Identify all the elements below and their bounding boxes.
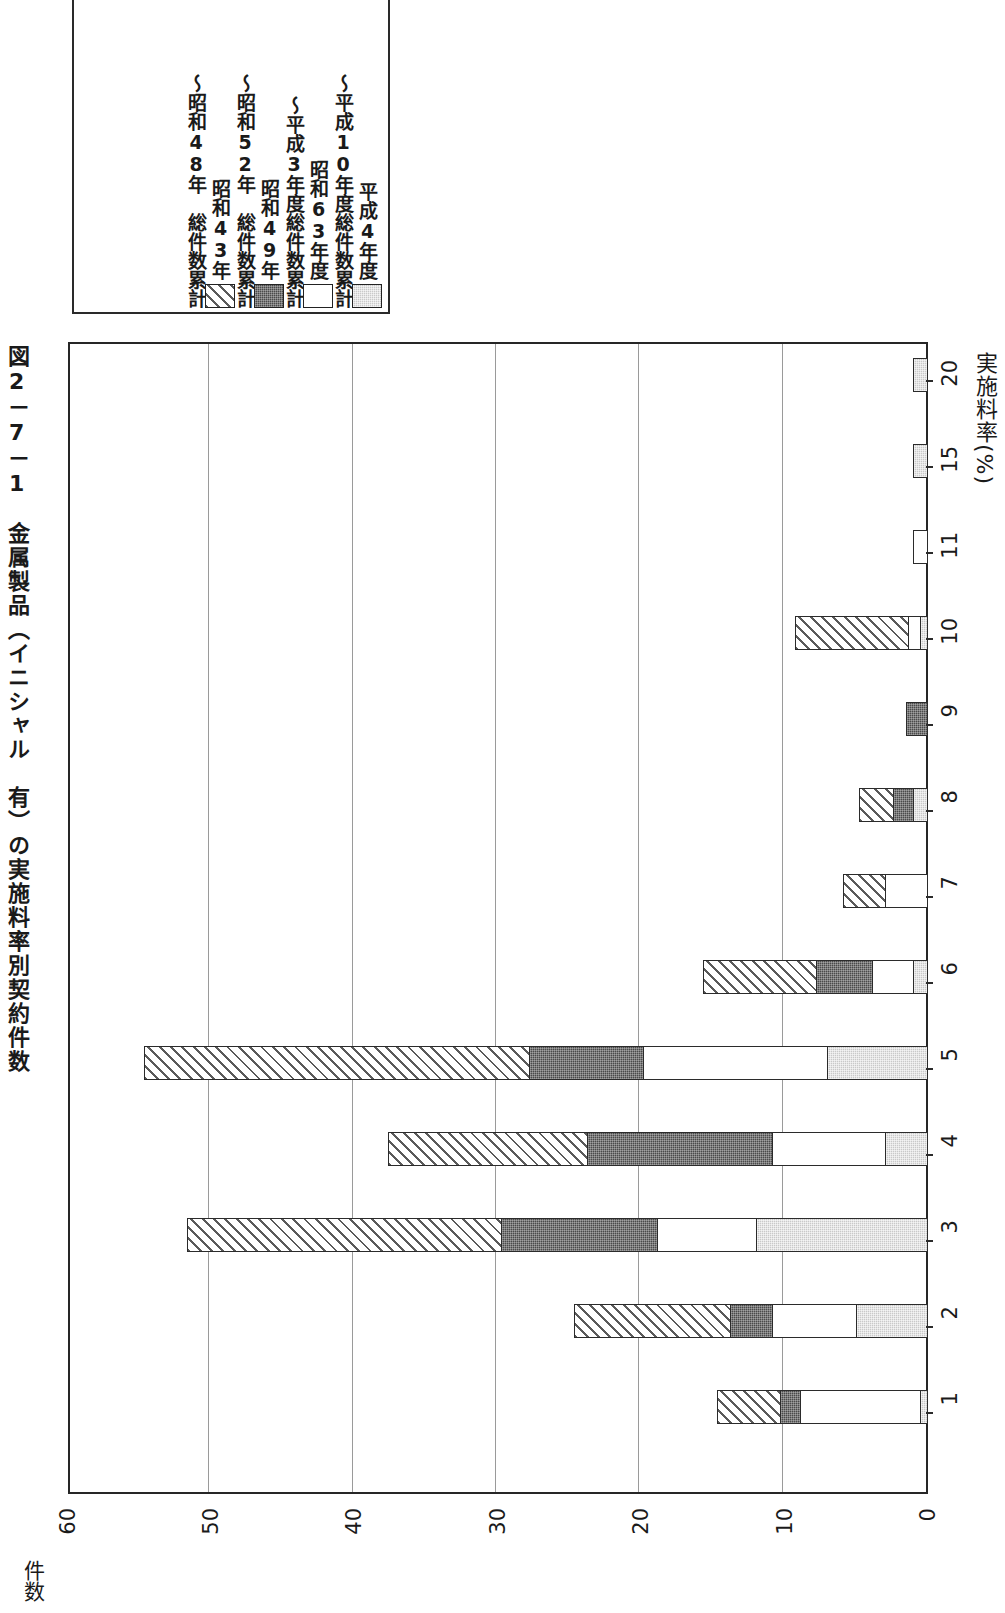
bar-segment [885, 874, 928, 908]
category-label-3: 3 [938, 1220, 962, 1233]
legend-label-1: 昭和63年度 [309, 160, 328, 280]
bar-segment [800, 1390, 922, 1424]
bar-row [913, 530, 926, 564]
legend-swatch-dark-gray-icon [254, 284, 284, 308]
bar-segment [388, 1132, 589, 1166]
category-label-9: 9 [938, 704, 962, 717]
category-label-15: 15 [938, 446, 962, 473]
bar-segment [913, 788, 927, 822]
legend-item-3: 昭和43年 ～昭和48年 総件数累計 [186, 0, 235, 308]
bar-segment [529, 1046, 644, 1080]
legend-entry-main: 昭和43年 [205, 179, 235, 308]
category-label-20: 20 [938, 360, 962, 387]
category-axis-title-main: 実施料率 [972, 352, 997, 444]
bar-segment [587, 1132, 773, 1166]
bar-row [859, 788, 926, 822]
value-axis-title: 件数 [22, 1560, 43, 1602]
bar-segment [872, 960, 915, 994]
legend-entry-main: 昭和63年度 [303, 160, 333, 308]
bar-segment [843, 874, 886, 908]
category-tick [926, 1326, 933, 1328]
bar-segment [920, 616, 927, 650]
bar-segment [703, 960, 818, 994]
bar-row [144, 1046, 926, 1080]
bar-segment [657, 1218, 757, 1252]
legend-label-0: 平成4年度 [358, 182, 377, 280]
bar-row [795, 616, 926, 650]
category-tick [926, 896, 933, 898]
bar-segment [859, 788, 895, 822]
legend-swatch-hatch-icon [205, 284, 235, 308]
value-label-40: 40 [342, 1508, 366, 1535]
bar-segment [780, 1390, 802, 1424]
bar-segment [913, 530, 927, 564]
category-tick [926, 724, 933, 726]
bar-row [913, 358, 926, 392]
legend-item-0: 平成4年度 ～平成10年度総件数累計 [333, 0, 382, 308]
category-tick [926, 1412, 933, 1414]
category-tick [926, 638, 933, 640]
category-label-8: 8 [938, 790, 962, 803]
legend-label-2: 昭和49年 [260, 179, 279, 280]
bar-row [574, 1304, 926, 1338]
legend-item-2: 昭和49年 ～昭和52年 総件数累計 [235, 0, 284, 308]
plot-area [68, 342, 928, 1494]
bar-segment [893, 788, 915, 822]
category-tick [926, 552, 933, 554]
category-label-10: 10 [938, 618, 962, 645]
bar-segment [730, 1304, 773, 1338]
value-label-50: 50 [199, 1508, 223, 1535]
bar-segment [920, 1390, 927, 1424]
bar-segment [913, 358, 927, 392]
value-label-20: 20 [629, 1508, 653, 1535]
bar-segment [795, 616, 910, 650]
category-tick [926, 466, 933, 468]
category-tick [926, 982, 933, 984]
bar-segment [574, 1304, 732, 1338]
bar-row [913, 444, 926, 478]
bar-row [187, 1218, 926, 1252]
category-tick [926, 1240, 933, 1242]
bar-segment [643, 1046, 829, 1080]
page-title: 図2－7－1 金属製品（イニシャル 有）の実施料率別契約件数 [4, 345, 28, 1074]
bar-segment [827, 1046, 927, 1080]
category-label-2: 2 [938, 1306, 962, 1319]
value-label-10: 10 [773, 1508, 797, 1535]
category-label-7: 7 [938, 876, 962, 889]
legend-continuation-1: ～平成3年度総件数累計 [284, 0, 303, 308]
value-label-30: 30 [486, 1508, 510, 1535]
category-label-5: 5 [938, 1048, 962, 1061]
bar-segment [501, 1218, 659, 1252]
category-tick [926, 810, 933, 812]
gridline-50 [208, 344, 209, 1492]
category-label-6: 6 [938, 962, 962, 975]
bar-segment [772, 1132, 887, 1166]
bar-segment [885, 1132, 928, 1166]
legend-swatch-light-gray-icon [352, 284, 382, 308]
legend-continuation-3: ～昭和48年 総件数累計 [186, 0, 205, 308]
bar-segment [906, 702, 928, 736]
bar-segment [913, 444, 927, 478]
bar-segment [756, 1218, 928, 1252]
value-label-60: 60 [56, 1508, 80, 1535]
bar-row [717, 1390, 926, 1424]
legend-continuation-0: ～平成10年度総件数累計 [333, 0, 352, 308]
legend-entry-main: 昭和49年 [254, 179, 284, 308]
bar-segment [717, 1390, 782, 1424]
bar-segment [913, 960, 927, 994]
legend-item-1: 昭和63年度 ～平成3年度総件数累計 [284, 0, 333, 308]
gridline-30 [495, 344, 496, 1492]
bar-row [388, 1132, 926, 1166]
category-tick [926, 1068, 933, 1070]
bar-row [843, 874, 926, 908]
category-label-4: 4 [938, 1134, 962, 1147]
bar-row [906, 702, 926, 736]
value-label-0: 0 [916, 1508, 940, 1521]
legend-continuation-2: ～昭和52年 総件数累計 [235, 0, 254, 308]
category-label-11: 11 [938, 532, 962, 559]
legend-entry-main: 平成4年度 [352, 182, 382, 308]
bar-segment [816, 960, 873, 994]
category-axis-title: 実施料率(%) [968, 352, 1000, 485]
category-label-1: 1 [938, 1392, 962, 1405]
category-axis-title-unit: (%) [972, 444, 997, 485]
